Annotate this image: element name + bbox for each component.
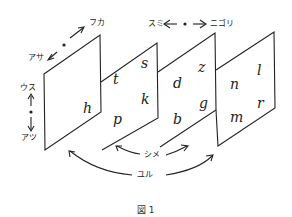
panel-3-letter: b	[173, 112, 182, 126]
panel-2-letter: s	[141, 56, 148, 70]
panel-3-letter: g	[199, 96, 208, 110]
label-nigori: ニゴリ	[210, 20, 234, 28]
label-asa: アサ	[28, 54, 44, 62]
panel-2-letter: k	[141, 92, 149, 106]
panel-3-letter: z	[198, 60, 205, 74]
label-usu: ウス	[20, 84, 36, 92]
panel-3-letter: d	[173, 76, 182, 90]
panel-4	[216, 32, 275, 146]
figure-caption: 図 1	[137, 203, 155, 216]
panel-4-letter: m	[230, 110, 243, 124]
panel-1	[44, 35, 101, 150]
panel-4-letter: l	[257, 63, 261, 77]
panel-2-letter: t	[113, 72, 119, 86]
label-yuru: ユル	[137, 171, 153, 179]
panel-2-letter: p	[113, 112, 122, 126]
panel-4-letter: r	[257, 96, 264, 110]
label-atsu: アツ	[21, 134, 37, 142]
label-shime: シメ	[144, 151, 160, 159]
label-sumi: スミ	[148, 20, 164, 28]
diagram-canvas	[0, 0, 292, 217]
panel-4-letter: n	[230, 77, 239, 91]
panel-3	[158, 33, 216, 147]
panel-1-letter: h	[83, 101, 92, 115]
label-fuka: フカ	[89, 19, 105, 27]
